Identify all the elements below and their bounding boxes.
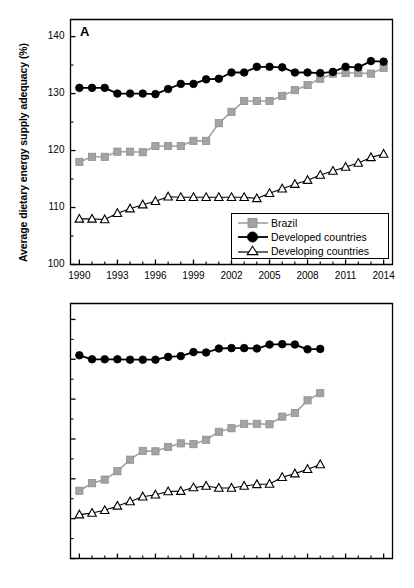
x-tick-label: 1999 (173, 270, 213, 281)
figure-root: Average dietary energy supply adequacy (… (0, 0, 414, 588)
panel-a: Average dietary energy supply adequacy (… (0, 0, 414, 294)
legend-marker-triangle-icon (236, 244, 270, 258)
y-tick-label: 120 (29, 144, 65, 155)
x-tick-label: 1996 (135, 270, 175, 281)
x-tick-label: 1990 (59, 270, 99, 281)
y-tick-label: 140 (29, 30, 65, 41)
legend-item-brazil: Brazil (236, 216, 297, 230)
panel-b-plot (0, 294, 414, 588)
x-tick-label: 2002 (212, 270, 252, 281)
legend-marker-square-icon (236, 216, 270, 230)
legend-item-developed: Developed countries (236, 230, 367, 244)
y-tick-label: 100 (29, 258, 65, 269)
legend: Brazil Developed countries Developing co… (231, 213, 389, 259)
legend-label-brazil: Brazil (271, 217, 297, 229)
legend-marker-circle-icon (236, 230, 270, 244)
x-tick-label: 1993 (97, 270, 137, 281)
y-tick-label: 130 (29, 87, 65, 98)
panel-b: Average protein supply (g per capita day… (0, 294, 414, 588)
x-tick-label: 2005 (250, 270, 290, 281)
legend-label-developed: Developed countries (271, 231, 367, 243)
y-tick-label: 110 (29, 201, 65, 212)
legend-item-developing: Developing countries (236, 244, 369, 258)
x-tick-label: 2011 (326, 270, 366, 281)
legend-label-developing: Developing countries (271, 245, 369, 257)
x-tick-label: 2014 (364, 270, 404, 281)
x-tick-label: 2008 (288, 270, 328, 281)
